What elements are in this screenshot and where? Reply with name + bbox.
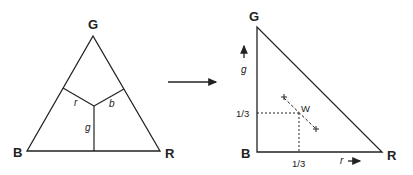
divider-r [63, 88, 94, 106]
star-marker-upper-icon [281, 94, 287, 100]
vertex-label-r-right: R [387, 148, 397, 163]
white-point-label: W [301, 103, 310, 114]
right-triangle [257, 27, 382, 152]
region-label-g: g [85, 122, 91, 133]
g-axis-label: g [241, 64, 247, 75]
vertex-label-b: B [13, 145, 22, 160]
vertex-label-r: R [165, 146, 175, 161]
y-tick-label: 1/3 [236, 108, 249, 119]
vertex-label-g-right: G [249, 9, 259, 24]
vertex-label-b-right: B [241, 146, 250, 161]
white-line-dashed [284, 98, 316, 129]
region-label-b: b [109, 98, 115, 109]
r-axis-label: r [340, 155, 344, 166]
x-tick-label: 1/3 [292, 158, 305, 169]
region-label-r: r [74, 97, 78, 108]
chromaticity-diagram: G B R r b g G B R W 1/3 1/3 g r [0, 0, 413, 175]
equilateral-triangle [27, 36, 160, 151]
vertex-label-g: G [88, 17, 98, 32]
